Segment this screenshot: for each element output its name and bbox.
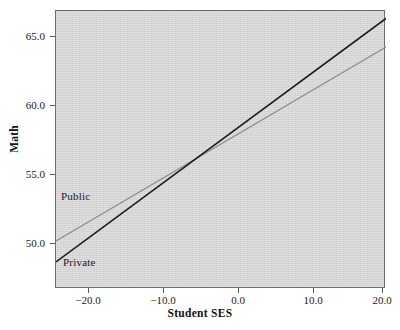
x-axis-title: Student SES <box>0 307 400 319</box>
series-label-private: Private <box>63 256 96 268</box>
series-lines <box>56 11 386 289</box>
line-private <box>56 19 386 262</box>
xtick-label-0: 0.0 <box>208 294 268 306</box>
ytick-mark-65 <box>50 36 55 37</box>
xtick-label-neg20: −20.0 <box>58 294 118 306</box>
xtick-mark-20 <box>382 288 383 293</box>
xtick-label-10: 10.0 <box>283 294 343 306</box>
ytick-label-65: 65.0 <box>5 30 45 42</box>
xtick-mark-10 <box>313 288 314 293</box>
xtick-mark-neg10 <box>163 288 164 293</box>
xtick-mark-0 <box>238 288 239 293</box>
ytick-mark-55 <box>50 174 55 175</box>
ytick-mark-50 <box>50 243 55 244</box>
xtick-label-20: 20.0 <box>352 294 400 306</box>
series-label-public: Public <box>61 190 90 202</box>
ytick-label-55: 55.0 <box>5 168 45 180</box>
plot-area: Public Private <box>55 10 385 288</box>
chart-figure: Public Private 65.0 60.0 55.0 50.0 −20.0… <box>0 0 400 330</box>
xtick-mark-neg20 <box>88 288 89 293</box>
y-axis-title: Math <box>8 109 20 169</box>
xtick-label-neg10: −10.0 <box>133 294 193 306</box>
ytick-mark-60 <box>50 105 55 106</box>
line-public <box>56 47 386 241</box>
ytick-label-50: 50.0 <box>5 237 45 249</box>
